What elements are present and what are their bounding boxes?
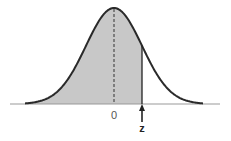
normal-curve-diagram: 0 z [0, 0, 231, 141]
z-arrow [139, 104, 145, 122]
mean-label: 0 [111, 109, 117, 121]
shaded-area [25, 8, 142, 104]
z-label: z [139, 122, 145, 134]
